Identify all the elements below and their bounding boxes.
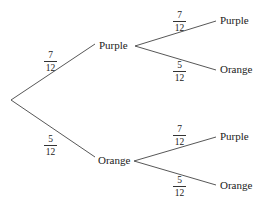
numerator: 7 xyxy=(176,10,183,20)
prob-orange-orange: 5 12 xyxy=(173,175,186,198)
numerator: 5 xyxy=(176,175,183,185)
prob-purple-orange: 5 12 xyxy=(173,60,186,83)
fraction-bar xyxy=(173,21,186,22)
node-purple-level1: Purple xyxy=(99,40,128,51)
fraction-bar xyxy=(44,145,57,146)
fraction-bar xyxy=(173,186,186,187)
fraction-bar xyxy=(173,71,186,72)
denominator: 12 xyxy=(45,63,57,73)
numerator: 5 xyxy=(176,60,183,70)
node-purple-orange: Orange xyxy=(220,64,252,75)
denominator: 12 xyxy=(174,73,186,83)
fraction-bar xyxy=(173,135,186,136)
node-purple-purple: Purple xyxy=(220,15,249,26)
node-orange-level1: Orange xyxy=(98,155,130,166)
node-orange-purple: Purple xyxy=(220,131,249,142)
tree-branches xyxy=(0,0,257,201)
denominator: 12 xyxy=(174,188,186,198)
numerator: 7 xyxy=(176,124,183,134)
denominator: 12 xyxy=(174,137,186,147)
node-orange-orange: Orange xyxy=(220,180,252,191)
denominator: 12 xyxy=(174,23,186,33)
prob-orange-purple: 7 12 xyxy=(173,124,186,147)
denominator: 12 xyxy=(45,147,57,157)
numerator: 7 xyxy=(47,50,54,60)
prob-root-purple: 7 12 xyxy=(44,50,57,73)
prob-root-orange: 5 12 xyxy=(44,134,57,157)
fraction-bar xyxy=(44,61,57,62)
prob-purple-purple: 7 12 xyxy=(173,10,186,33)
numerator: 5 xyxy=(47,134,54,144)
